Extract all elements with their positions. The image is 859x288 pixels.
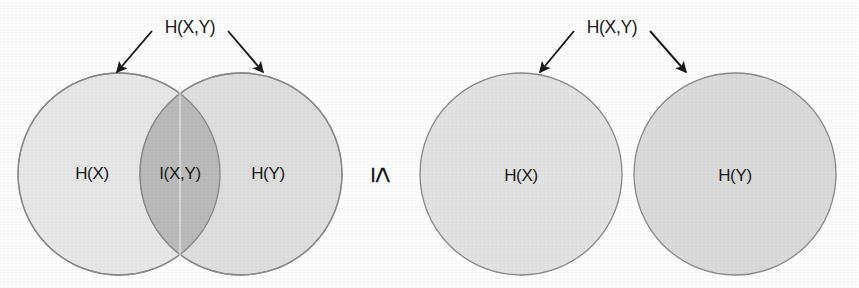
left-diagram-hx-label: H(X) (75, 164, 109, 184)
left-diagram-hy-label: H(Y) (251, 164, 285, 184)
arrow-icon-right-2 (650, 31, 686, 72)
arrow-icon-left-1 (117, 31, 152, 72)
venn-shapes-layer (0, 0, 859, 288)
left-diagram-top-label: H(X,Y) (165, 17, 216, 38)
entropy-venn-figure: H(X,Y) H(X) I(X,Y) H(Y) ≤ H(X,Y) H(X) H(… (0, 0, 859, 288)
less-than-or-equal-icon: ≤ (367, 167, 397, 183)
right-diagram-hx-label: H(X) (504, 166, 538, 186)
right-diagram-top-label: H(X,Y) (587, 17, 638, 38)
arrow-icon-right-1 (540, 31, 574, 72)
right-diagram-hy-label: H(Y) (718, 166, 752, 186)
left-diagram-intersection-label: I(X,Y) (159, 164, 201, 184)
arrow-icon-left-2 (228, 31, 263, 72)
right-venn-group (420, 73, 836, 275)
